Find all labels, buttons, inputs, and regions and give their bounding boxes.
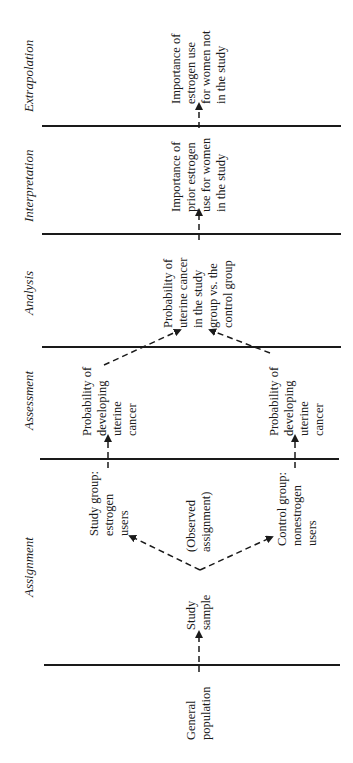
stage-label-assessment: Assessment: [21, 371, 36, 430]
node-interpretation: Importance of prior estrogen use for wom…: [169, 138, 229, 212]
node-general-population: General population: [184, 687, 214, 740]
stage-label-interpretation: Interpretation: [21, 150, 36, 222]
arrow-study-probability-to-analysis: [104, 330, 180, 365]
stage-label-extrapolation: Extrapolation: [21, 40, 36, 112]
stage-label-analysis: Analysis: [21, 271, 36, 315]
node-study-group: Study group: estrogen users: [87, 471, 132, 536]
node-observed-assignment: (Observed assignment): [184, 492, 214, 552]
stage-label-assignment: Assignment: [21, 537, 36, 597]
node-analysis: Probability of uterine cancer in the stu…: [161, 258, 236, 328]
node-control-group: Control group: nonestrogen users: [275, 472, 320, 546]
node-study-probability: Probability of developing uterine cancer: [80, 367, 140, 436]
node-extrapolation: Importance of estrogen use for women not…: [169, 30, 229, 104]
node-study-sample: Study sample: [184, 595, 214, 630]
node-control-probability: Probability of developing uterine cancer: [267, 367, 327, 436]
arrow-control-probability-to-analysis: [210, 330, 270, 353]
